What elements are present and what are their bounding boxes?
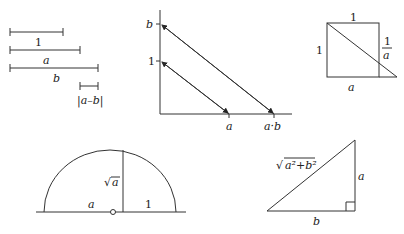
label-y-b: b [146, 18, 153, 31]
label-y-one: 1 [148, 55, 155, 68]
label-hyp-root: √ [276, 159, 284, 172]
label-x-a: a [226, 120, 233, 133]
square-root-figure: √ a a 1 [36, 150, 186, 215]
reciprocal-figure: 1 1 1 a a [316, 11, 397, 94]
hypotenuse-figure: √ a²+b² a b [267, 140, 365, 228]
multiplication-figure: b 1 a a·b [146, 10, 292, 133]
label-a: a [43, 54, 50, 67]
label-sqrt-sign: √ [104, 176, 112, 189]
label-top: 1 [350, 11, 357, 24]
segments-figure: 1 a b |a–b| [10, 28, 104, 108]
label-one: 1 [35, 36, 42, 49]
label-hyp-expr: a²+b² [285, 159, 317, 172]
label-diff: |a–b| [77, 94, 104, 108]
label-one: 1 [145, 198, 152, 211]
label-vertical: a [358, 170, 365, 183]
label-b: b [53, 72, 60, 85]
label-right-num: 1 [384, 35, 391, 48]
construction-diagrams: 1 a b |a–b| b 1 a a·b 1 1 1 a [0, 0, 404, 234]
right-triangle [267, 140, 355, 211]
label-base: b [313, 215, 320, 228]
label-x-ab: a·b [264, 120, 281, 133]
label-left: 1 [316, 44, 323, 57]
label-bottom: a [348, 81, 355, 94]
label-right-den: a [383, 49, 390, 62]
right-angle-mark [346, 202, 355, 211]
label-a: a [88, 198, 95, 211]
center-point [111, 210, 116, 215]
unit-square [327, 23, 379, 77]
label-sqrt-var: a [112, 176, 119, 189]
